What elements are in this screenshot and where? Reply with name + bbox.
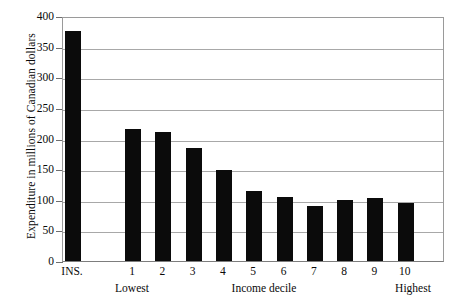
bar-2 <box>155 132 171 261</box>
bar-4 <box>216 170 232 261</box>
x-tick-label-ins: INS. <box>47 265 97 277</box>
y-tick-0 <box>56 262 63 263</box>
bar-7 <box>307 206 323 261</box>
bar-6 <box>277 197 293 261</box>
bar-5 <box>246 191 262 261</box>
bar-1 <box>125 129 141 261</box>
bar-chart: Expenditure in millions of Canadian doll… <box>0 0 452 303</box>
gridline-350 <box>63 49 443 50</box>
y-tick-label-50: 50 <box>2 225 54 236</box>
y-tick-label-200: 200 <box>2 134 54 145</box>
bar-9 <box>367 198 383 261</box>
bar-ins <box>65 31 81 261</box>
y-tick-label-400: 400 <box>2 11 54 22</box>
gridline-150 <box>63 171 443 172</box>
plot-area <box>62 17 444 262</box>
bar-10 <box>398 203 414 261</box>
bar-8 <box>337 200 353 261</box>
gridline-250 <box>63 110 443 111</box>
x-axis-title: Income decile <box>216 282 312 294</box>
y-tick-label-350: 350 <box>2 42 54 53</box>
y-tick-label-300: 300 <box>2 72 54 83</box>
x-axis-highest-label: Highest <box>378 282 448 294</box>
gridline-300 <box>63 79 443 80</box>
y-tick-label-100: 100 <box>2 195 54 206</box>
bar-3 <box>186 148 202 261</box>
gridline-200 <box>63 141 443 142</box>
x-axis-lowest-label: Lowest <box>92 282 172 294</box>
cropped-caption-strip <box>60 0 450 4</box>
x-tick-label-10: 10 <box>380 265 430 277</box>
y-tick-label-150: 150 <box>2 164 54 175</box>
y-tick-label-250: 250 <box>2 103 54 114</box>
